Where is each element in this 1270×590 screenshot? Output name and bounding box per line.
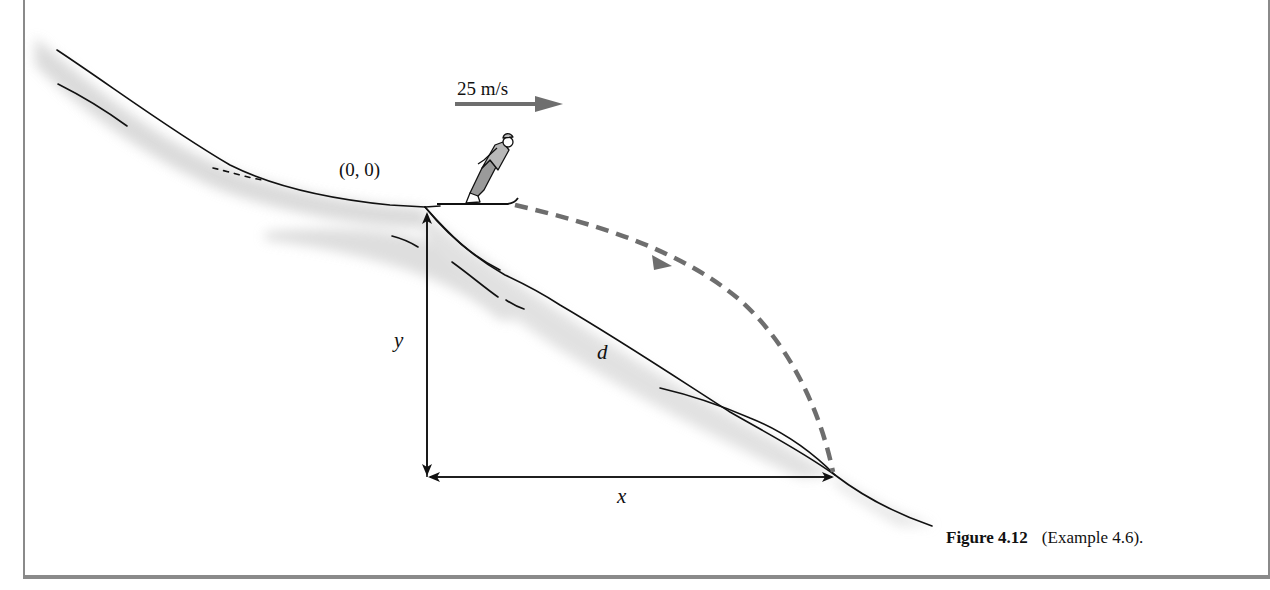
figure-number: Figure 4.12 bbox=[946, 528, 1028, 547]
dimension-arrows bbox=[427, 214, 832, 477]
d-label: d bbox=[597, 340, 608, 365]
figure-caption: Figure 4.12(Example 4.6). bbox=[946, 528, 1143, 548]
y-label: y bbox=[394, 328, 403, 353]
x-label: x bbox=[617, 484, 626, 509]
figure-caption-text: (Example 4.6). bbox=[1042, 528, 1144, 547]
ski-jumper-icon bbox=[437, 134, 518, 204]
origin-label: (0, 0) bbox=[339, 159, 380, 181]
trajectory-direction-icon bbox=[652, 255, 672, 270]
velocity-label: 25 m/s bbox=[457, 78, 508, 100]
